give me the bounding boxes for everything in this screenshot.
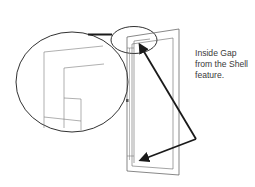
shell-outline [127,29,179,175]
detail-circle [16,32,128,132]
callout-line-1: Inside Gap [195,48,255,59]
detail-inner-corner-line [64,64,104,128]
callout-line-3: feature. [195,70,255,81]
shell-gap-line [134,39,150,41]
detail-view [16,32,129,132]
detail-bottom-line [44,117,81,121]
callout-line-2: from the Shell [195,59,255,70]
arrows [140,45,196,160]
detail-outer-corner-line [44,46,103,128]
arrow-to-top-gap [140,45,196,139]
detail-step-line [64,98,81,130]
callout-label: Inside Gap from the Shell feature. [195,48,255,81]
shell-gap-diagram [0,0,255,187]
arrow-to-bottom-gap [141,139,196,160]
shell-outer-wall [127,29,179,175]
